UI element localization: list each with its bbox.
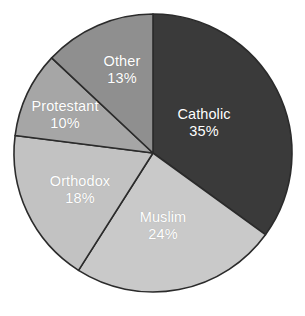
pie-chart-svg xyxy=(0,0,305,316)
pie-chart: Catholic35%Muslim24%Orthodox18%Protestan… xyxy=(0,0,305,316)
pie-slices-group xyxy=(14,14,292,292)
